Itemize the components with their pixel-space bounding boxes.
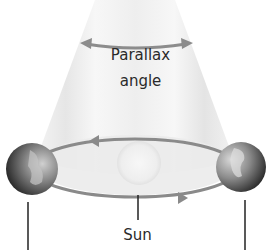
diagram-canvas [0,0,271,250]
earth-left-icon [6,143,58,195]
earth-right-icon [216,142,266,192]
parallax-label: Parallax [103,46,178,64]
sun-icon [117,141,161,185]
angle-label: angle [103,72,178,90]
sun-label: Sun [115,226,160,244]
parallax-diagram: Parallax angle Sun [0,0,271,250]
